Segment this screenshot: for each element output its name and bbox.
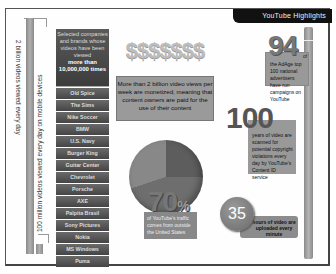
brand-item: Nike Soccer <box>56 112 109 123</box>
brand-item: AXE <box>56 196 109 207</box>
dollar-signs-graphic: $$$$$$$ <box>116 40 214 62</box>
brand-item: Porsche <box>56 184 109 195</box>
brand-item: Chevrolet <box>56 172 109 183</box>
brand-item: U.S. Navy <box>56 136 109 147</box>
brand-item: Old Spice <box>56 88 109 99</box>
uploads-number: 35 <box>220 197 254 231</box>
brand-item: The Sims <box>56 100 109 111</box>
adage-suffix: of <box>303 53 307 59</box>
brand-item: Palpita Brasil <box>56 208 109 219</box>
brands-header: Selected companies and brands whose vide… <box>56 29 109 87</box>
brand-item: Sony Pictures <box>56 220 109 231</box>
brand-item: Burger King <box>56 148 109 159</box>
mobile-views-label: 100 million videos viewed every day on m… <box>36 74 43 232</box>
daily-views-label: 2 billion videos viewed every day <box>15 40 22 135</box>
banner-title: YouTube Highlights <box>233 9 332 23</box>
brand-item: MS Windows <box>56 244 109 255</box>
brand-item: BMW <box>56 124 109 135</box>
brands-header-text: Selected companies and brands whose vide… <box>57 31 107 58</box>
right-bar-marker <box>304 40 313 41</box>
brand-item: Nokia <box>56 232 109 243</box>
content-id-number: 100 <box>226 103 273 133</box>
traffic-text: of YouTube's traffic comes from outside … <box>144 212 197 239</box>
mobile-views-bar <box>36 244 43 254</box>
brand-item: Puma <box>56 256 109 267</box>
brands-list: Selected companies and brands whose vide… <box>56 29 109 267</box>
monetized-text: More than 2 billion video views per week… <box>116 76 214 121</box>
adage-number: 94 <box>268 32 297 60</box>
mobile-bar-bracket <box>38 234 49 243</box>
brands-header-emphasis: more than 10,000,000 times <box>59 59 106 72</box>
brand-item: Guitar Center <box>56 160 109 171</box>
daily-views-bar <box>26 18 34 254</box>
